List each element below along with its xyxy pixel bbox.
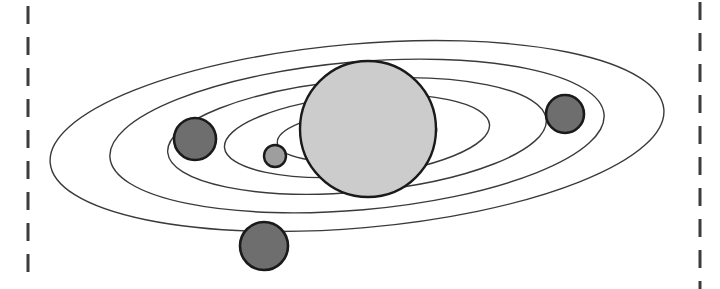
planet-left xyxy=(174,118,216,160)
planet-right xyxy=(546,95,584,133)
planet-inner-small xyxy=(264,145,286,167)
solar-system-diagram xyxy=(0,0,720,289)
diagram-canvas xyxy=(0,0,720,289)
planet-bottom xyxy=(240,222,288,270)
sun xyxy=(300,61,436,197)
